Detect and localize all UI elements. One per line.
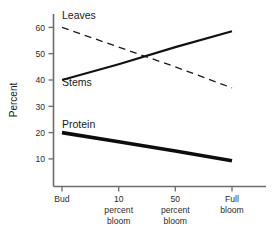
line-chart: 60 50 40 30 20 10 Percent Bud 10 percent… [0,0,275,231]
x-tick-label-10-line2: percent [104,205,133,215]
y-tick-label-60: 60 [35,23,45,33]
x-tick-label-full-line1: Full [225,194,239,204]
y-tick-label-30: 30 [35,102,45,112]
x-tick-label-50-line2: percent [161,205,190,215]
chart-figure: 60 50 40 30 20 10 Percent Bud 10 percent… [0,0,275,231]
series-label-stems: Stems [62,76,92,88]
y-tick-label-50: 50 [35,49,45,59]
x-tick-label-10-line3: bloom [107,216,130,226]
x-tick-label-50-line1: 50 [171,194,181,204]
x-tick-label-50-line3: bloom [164,216,187,226]
y-tick-label-20: 20 [35,128,45,138]
y-axis-title: Percent [8,83,19,118]
x-tick-label-bud-line1: Bud [54,194,70,204]
x-tick-label-10-line1: 10 [114,194,124,204]
x-tick-label-full-line2: bloom [220,205,243,215]
y-tick-label-40: 40 [35,75,45,85]
series-label-protein: Protein [62,118,95,130]
y-tick-label-10: 10 [35,154,45,164]
series-label-leaves: Leaves [62,9,96,21]
